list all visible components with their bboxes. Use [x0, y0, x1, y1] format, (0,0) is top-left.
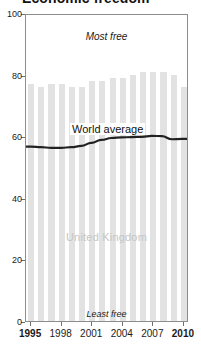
- x-axis-tick-label: 2001: [80, 328, 102, 339]
- plot-area: Most free United Kingdom World average L…: [25, 14, 188, 322]
- chart-title-clipped: Economic freedom: [0, 0, 201, 5]
- x-axis-tick: [122, 322, 123, 326]
- x-axis-tick-label: 2007: [141, 328, 163, 339]
- x-axis-tick: [30, 322, 31, 326]
- page-title: Economic freedom: [0, 0, 201, 5]
- y-axis-tick-label: 80: [12, 71, 22, 81]
- x-axis-tick-label: 2004: [111, 328, 133, 339]
- x-axis-tick: [183, 322, 184, 326]
- line-series-world-average: [26, 15, 187, 321]
- x-axis-tick: [152, 322, 153, 326]
- x-axis-tick-label: 1998: [50, 328, 72, 339]
- x-axis-tick: [61, 322, 62, 326]
- y-axis-tick-label: 100: [7, 9, 22, 19]
- x-axis-tick-label: 2010: [172, 328, 194, 339]
- x-axis-tick-label: 1995: [19, 328, 41, 339]
- x-axis-tick: [91, 322, 92, 326]
- y-axis-tick-label: 0: [17, 317, 22, 327]
- y-axis-tick-label: 20: [12, 255, 22, 265]
- y-axis-tick-label: 40: [12, 194, 22, 204]
- economic-freedom-chart: Economic freedom Most free United Kingdo…: [0, 0, 201, 353]
- y-axis-tick-label: 60: [12, 132, 22, 142]
